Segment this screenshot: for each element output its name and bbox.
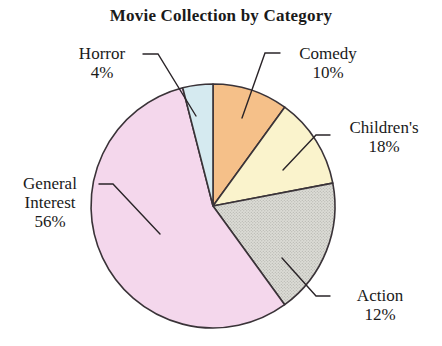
slice-label-action-name: Action bbox=[357, 286, 403, 305]
slice-label-horror-name: Horror bbox=[79, 44, 125, 63]
slice-label-action-percent: 12% bbox=[330, 305, 430, 324]
slice-label-action: Action 12% bbox=[330, 286, 430, 324]
slice-label-general-interest-percent: 56% bbox=[2, 212, 98, 231]
slice-label-comedy-name: Comedy bbox=[299, 44, 357, 63]
pie-chart-figure: Movie Collection by Category bbox=[0, 0, 442, 346]
slice-label-horror: Horror 4% bbox=[54, 44, 150, 82]
slice-label-horror-percent: 4% bbox=[54, 63, 150, 82]
slice-label-comedy: Comedy 10% bbox=[280, 44, 376, 82]
slice-label-childrens-name: Children's bbox=[349, 118, 418, 137]
pie-slices bbox=[91, 84, 335, 328]
slice-label-childrens: Children's 18% bbox=[330, 118, 438, 156]
slice-label-general-interest: General Interest 56% bbox=[2, 174, 98, 231]
slice-label-general-interest-name-line1: General bbox=[23, 174, 77, 193]
slice-label-general-interest-name-line2: Interest bbox=[2, 193, 98, 212]
slice-label-childrens-percent: 18% bbox=[330, 137, 438, 156]
slice-label-comedy-percent: 10% bbox=[280, 63, 376, 82]
